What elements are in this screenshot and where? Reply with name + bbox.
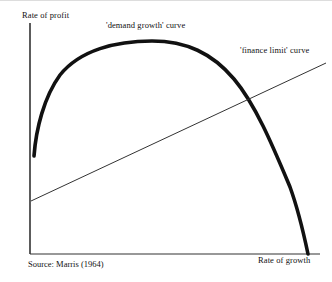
y-axis-label: Rate of profit xyxy=(22,11,69,20)
finance-limit-curve-label: 'finance limit' curve xyxy=(240,46,309,55)
source-note: Source: Marris (1964) xyxy=(28,259,104,269)
finance-limit-curve xyxy=(31,63,326,201)
demand-growth-curve-label: 'demand growth' curve xyxy=(106,21,185,30)
figure-container: Rate of profit Rate of growth 'demand gr… xyxy=(0,0,332,282)
x-axis-label: Rate of growth xyxy=(258,256,310,265)
demand-growth-curve xyxy=(34,41,308,254)
chart-canvas xyxy=(0,1,332,282)
